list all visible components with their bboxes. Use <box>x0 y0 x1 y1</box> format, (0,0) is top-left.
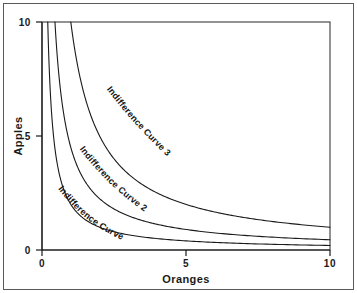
y-tick-label-5: 5 <box>25 131 31 142</box>
figure-container: 10 5 0 0 5 10 Oranges Apples Indifferenc… <box>0 0 357 293</box>
y-tick-label-0: 0 <box>25 245 31 256</box>
x-tick-label-0: 0 <box>39 258 45 269</box>
y-axis-title: Apples <box>12 116 24 155</box>
curve-indifference-2 <box>55 22 330 240</box>
curve-label-2: Indifference Curve 2 <box>78 144 149 213</box>
x-axis-title: Oranges <box>162 273 209 285</box>
x-tick-label-5: 5 <box>183 258 189 269</box>
curve-label-3: Indifference Curve 3 <box>105 84 173 158</box>
indifference-curve-chart: 10 5 0 0 5 10 Oranges Apples Indifferenc… <box>0 0 357 293</box>
curve-indifference-3 <box>71 22 330 227</box>
y-tick-label-10: 10 <box>19 17 31 28</box>
x-tick-label-10: 10 <box>324 258 336 269</box>
